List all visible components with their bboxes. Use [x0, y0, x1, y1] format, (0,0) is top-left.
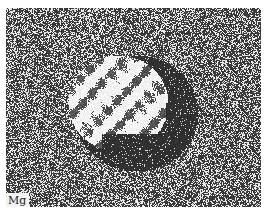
mg-distribution-map: [6, 8, 261, 207]
element-map-image: Mg: [6, 8, 261, 207]
element-label: Mg: [6, 193, 29, 207]
